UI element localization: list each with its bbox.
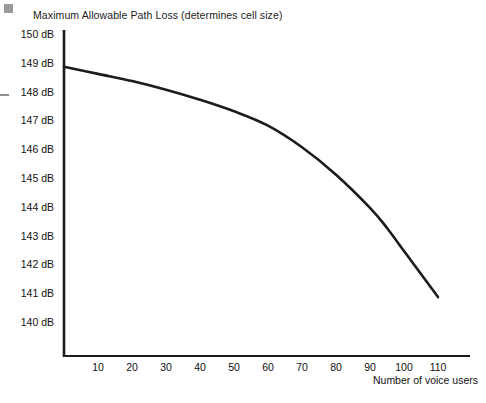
y-axis-tick-label: 145 dB — [8, 172, 54, 184]
y-axis-tick-label: 148 dB — [8, 86, 54, 98]
y-axis-tick-label: 147 dB — [8, 114, 54, 126]
x-axis-title: Number of voice users — [330, 374, 478, 386]
y-axis-tick-label: 140 dB — [8, 316, 54, 328]
y-axis-tick-label: 141 dB — [8, 287, 54, 299]
y-axis-tick-label: 146 dB — [8, 143, 54, 155]
chart-line-series — [64, 67, 438, 297]
y-axis-tick-label: 142 dB — [8, 258, 54, 270]
chart-plot-area — [0, 0, 486, 403]
y-axis-tick-label: 150 dB — [8, 28, 54, 40]
y-axis-tick-label: 144 dB — [8, 201, 54, 213]
y-axis-tick-label: 149 dB — [8, 57, 54, 69]
chart-page: Maximum Allowable Path Loss (determines … — [0, 0, 486, 403]
x-axis-tick-label: 110 — [418, 361, 458, 373]
y-axis-tick-label: 143 dB — [8, 230, 54, 242]
chart-series-group — [64, 67, 438, 297]
